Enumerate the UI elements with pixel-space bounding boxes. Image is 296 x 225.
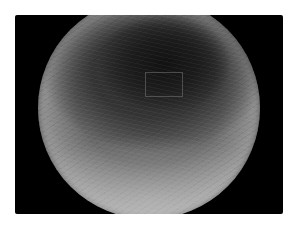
endoscope-view	[15, 15, 283, 214]
region-of-interest-box	[145, 72, 183, 97]
endoscopy-frame	[15, 15, 283, 214]
mucosa-highlight	[38, 15, 260, 214]
